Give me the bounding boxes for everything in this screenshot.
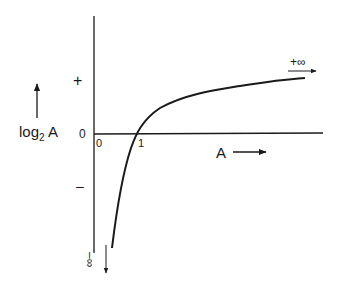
y-axis-label-subscript: 2 <box>39 132 45 143</box>
y-tick-minus: – <box>76 179 84 193</box>
x-one-label: 1 <box>138 138 144 149</box>
x-axis <box>94 133 323 134</box>
y-tick-zero: 0 <box>79 128 86 140</box>
negative-infinity-label: –∞ <box>84 252 96 267</box>
y-tick-plus: + <box>73 73 82 89</box>
x-axis-label: A <box>216 145 226 160</box>
y-axis-label-log: log <box>19 123 39 140</box>
x-origin-label: 0 <box>96 138 102 149</box>
log-curve <box>112 78 305 248</box>
positive-infinity-label: +∞ <box>290 56 306 68</box>
plot-canvas <box>0 0 338 290</box>
y-axis-label-variable: A <box>45 123 58 140</box>
y-axis-label: log2 A <box>19 124 58 139</box>
